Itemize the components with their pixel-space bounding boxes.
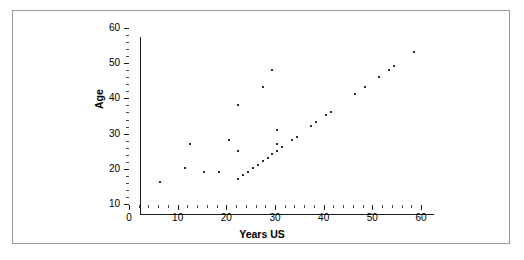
y-tick-label: 20: [98, 164, 120, 174]
y-tick-minor: [126, 91, 129, 92]
x-tick-label: 0: [117, 213, 141, 223]
x-axis-title: Years US: [0, 228, 524, 240]
x-tick-label: 10: [166, 213, 190, 223]
y-tick-minor: [126, 42, 129, 43]
y-tick-major: [124, 134, 129, 135]
scatter-plot-figure: 102030405060 0102030405060 Age Years US: [0, 0, 524, 260]
y-tick-minor: [126, 49, 129, 50]
data-point: [354, 93, 356, 95]
data-point: [330, 111, 332, 113]
data-point: [228, 139, 230, 141]
data-point: [276, 150, 278, 152]
x-tick-minor: [139, 205, 140, 208]
data-point: [218, 171, 220, 173]
data-point: [388, 69, 390, 71]
data-point: [364, 86, 366, 88]
y-tick-major: [124, 98, 129, 99]
y-tick-minor: [126, 183, 129, 184]
y-tick-minor: [126, 70, 129, 71]
y-tick-minor: [126, 120, 129, 121]
data-point: [262, 86, 264, 88]
data-point: [281, 146, 283, 148]
y-tick-minor: [126, 141, 129, 142]
plot-area: [141, 38, 433, 214]
data-point: [310, 125, 312, 127]
y-tick-minor: [126, 197, 129, 198]
data-point: [315, 121, 317, 123]
data-point: [271, 153, 273, 155]
y-tick-minor: [126, 127, 129, 128]
x-tick-label: 60: [409, 213, 433, 223]
data-point: [247, 171, 249, 173]
data-point: [237, 104, 239, 106]
y-tick-minor: [126, 84, 129, 85]
data-point: [276, 129, 278, 131]
data-point: [325, 114, 327, 116]
y-axis-title: Age: [93, 89, 105, 109]
data-point: [271, 69, 273, 71]
data-point: [413, 51, 415, 53]
y-tick-minor: [126, 35, 129, 36]
y-tick-minor: [126, 155, 129, 156]
data-point: [237, 150, 239, 152]
x-tick-label: 40: [312, 213, 336, 223]
x-tick-label: 50: [360, 213, 384, 223]
y-tick-minor: [126, 148, 129, 149]
data-point: [296, 136, 298, 138]
y-tick-major: [124, 28, 129, 29]
y-tick-minor: [126, 176, 129, 177]
x-tick-major: [129, 205, 130, 210]
data-point: [252, 167, 254, 169]
y-tick-label: 30: [98, 129, 120, 139]
data-point: [257, 164, 259, 166]
data-point: [159, 181, 161, 183]
data-point: [291, 139, 293, 141]
y-tick-minor: [126, 190, 129, 191]
data-point: [203, 171, 205, 173]
data-point: [189, 143, 191, 145]
y-tick-label: 50: [98, 58, 120, 68]
y-tick-minor: [126, 112, 129, 113]
data-point: [276, 143, 278, 145]
x-tick-label: 30: [263, 213, 287, 223]
data-point: [242, 174, 244, 176]
y-tick-minor: [126, 56, 129, 57]
y-tick-major: [124, 63, 129, 64]
data-point: [237, 178, 239, 180]
figure-frame: 102030405060 0102030405060 Age: [12, 10, 510, 244]
data-point: [393, 65, 395, 67]
y-tick-minor: [126, 162, 129, 163]
data-point: [184, 167, 186, 169]
y-tick-minor: [126, 105, 129, 106]
x-tick-label: 20: [214, 213, 238, 223]
data-point: [262, 160, 264, 162]
y-tick-label: 10: [98, 199, 120, 209]
y-tick-major: [124, 169, 129, 170]
data-point: [378, 76, 380, 78]
y-tick-label: 60: [98, 23, 120, 33]
y-tick-minor: [126, 77, 129, 78]
data-point: [267, 157, 269, 159]
